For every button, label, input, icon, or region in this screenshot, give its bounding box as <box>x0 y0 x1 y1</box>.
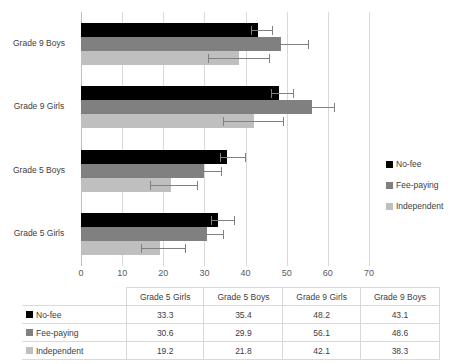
table-cell: 56.1 <box>283 324 360 342</box>
gridline-70 <box>369 12 370 266</box>
error-bar-cap <box>185 244 186 253</box>
error-bar <box>251 30 273 31</box>
error-bar-cap <box>273 40 274 49</box>
x-tick-label: 50 <box>272 268 302 278</box>
error-bar-cap <box>221 167 222 176</box>
table-row: Fee-paying30.629.956.148.6 <box>22 324 440 342</box>
table-cell: 43.1 <box>360 306 439 324</box>
error-bar-cap <box>303 103 304 112</box>
table-column-header: Grade 9 Girls <box>283 288 360 306</box>
bar[interactable] <box>81 213 218 227</box>
series-label: No-fee <box>36 310 62 320</box>
series-swatch-icon <box>26 329 33 336</box>
bar-row[interactable] <box>81 51 369 65</box>
bar[interactable] <box>81 227 207 241</box>
error-bar <box>199 234 223 235</box>
category-label: Grade 5 Girls <box>0 228 78 238</box>
bar-row[interactable] <box>81 150 369 164</box>
bar[interactable] <box>81 86 279 100</box>
error-bar-cap <box>269 54 270 63</box>
error-bar-cap <box>308 40 309 49</box>
error-bar-cap <box>283 117 284 126</box>
table-body: No-fee33.335.448.243.1Fee-paying30.629.9… <box>22 306 440 360</box>
bar[interactable] <box>81 150 227 164</box>
error-bar-cap <box>271 89 272 98</box>
error-bar-cap <box>245 153 246 162</box>
table-cell: 38.3 <box>360 342 439 360</box>
x-tick-label: 40 <box>231 268 261 278</box>
legend-label: Independent <box>396 201 443 211</box>
legend-label: Fee-paying <box>396 180 439 190</box>
bar-row[interactable] <box>81 86 369 100</box>
legend-item[interactable]: No-fee <box>386 159 443 169</box>
error-bar <box>196 171 221 172</box>
table-column-header: Grade 5 Boys <box>204 288 283 306</box>
error-bar-cap <box>334 103 335 112</box>
error-bar <box>223 121 283 122</box>
table-cell: 29.9 <box>204 324 283 342</box>
table-column-header: Grade 9 Boys <box>360 288 439 306</box>
error-bar <box>211 220 234 221</box>
error-bar-cap <box>293 89 294 98</box>
bar-row[interactable] <box>81 178 369 192</box>
series-swatch-icon <box>26 311 33 318</box>
x-tick-label: 70 <box>354 268 384 278</box>
error-bar <box>273 44 308 45</box>
bar-row[interactable] <box>81 37 369 51</box>
table-corner-cell <box>22 288 127 306</box>
error-bar <box>150 185 197 186</box>
error-bar-cap <box>197 181 198 190</box>
table-header-row: Grade 5 GirlsGrade 5 BoysGrade 9 GirlsGr… <box>22 288 440 306</box>
bar-row[interactable] <box>81 227 369 241</box>
series-label: Fee-paying <box>36 328 79 338</box>
bar-row[interactable] <box>81 100 369 114</box>
x-tick-label: 0 <box>66 268 96 278</box>
legend-item[interactable]: Fee-paying <box>386 180 443 190</box>
table-cell: 21.8 <box>204 342 283 360</box>
error-bar-cap <box>234 216 235 225</box>
bar-row[interactable] <box>81 23 369 37</box>
bar-row[interactable] <box>81 114 369 128</box>
table-cell: 19.2 <box>127 342 204 360</box>
error-bar-cap <box>220 153 221 162</box>
error-bar <box>208 58 270 59</box>
legend-swatch-icon <box>386 203 393 210</box>
table-cell: 30.6 <box>127 324 204 342</box>
x-tick-label: 60 <box>313 268 343 278</box>
table-row: Independent19.221.842.138.3 <box>22 342 440 360</box>
error-bar-cap <box>199 230 200 239</box>
plot-area <box>81 12 369 266</box>
error-bar-cap <box>208 54 209 63</box>
error-bar <box>220 157 246 158</box>
x-tick-label: 20 <box>148 268 178 278</box>
chart-page: 010203040506070 Grade 5 GirlsGrade 5 Boy… <box>0 0 463 364</box>
table-row-header: No-fee <box>22 306 127 324</box>
table-header: Grade 5 GirlsGrade 5 BoysGrade 9 GirlsGr… <box>22 288 440 306</box>
bar-group <box>81 213 369 255</box>
error-bar <box>303 107 335 108</box>
category-label: Grade 5 Boys <box>0 165 78 175</box>
table-cell: 48.2 <box>283 306 360 324</box>
bar-group <box>81 86 369 128</box>
table-row: No-fee33.335.448.243.1 <box>22 306 440 324</box>
table-column-header: Grade 5 Girls <box>127 288 204 306</box>
bar[interactable] <box>81 37 281 51</box>
legend-label: No-fee <box>396 159 422 169</box>
table-cell: 42.1 <box>283 342 360 360</box>
legend-swatch-icon <box>386 182 393 189</box>
bar-group <box>81 150 369 192</box>
error-bar-cap <box>272 26 273 35</box>
bar[interactable] <box>81 164 204 178</box>
bar-row[interactable] <box>81 213 369 227</box>
bar[interactable] <box>81 100 312 114</box>
x-tick-label: 10 <box>107 268 137 278</box>
legend-item[interactable]: Independent <box>386 201 443 211</box>
table-cell: 33.3 <box>127 306 204 324</box>
bar-chart: 010203040506070 Grade 5 GirlsGrade 5 Boy… <box>0 0 463 282</box>
category-label: Grade 9 Boys <box>0 38 78 48</box>
bar-row[interactable] <box>81 241 369 255</box>
table-row-header: Independent <box>22 342 127 360</box>
bar[interactable] <box>81 23 258 37</box>
series-swatch-icon <box>26 347 33 354</box>
bar-row[interactable] <box>81 164 369 178</box>
